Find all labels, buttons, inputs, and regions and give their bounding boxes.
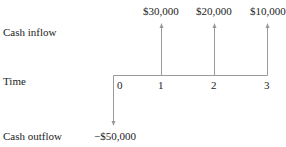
- period-label-1: 1: [158, 79, 164, 91]
- cash-inflow-label: Cash inflow: [3, 26, 56, 38]
- arrowhead-up-icon: [266, 23, 270, 28]
- arrowhead-up-icon: [213, 23, 217, 28]
- arrowhead-down-icon: [112, 121, 116, 126]
- cash-outflow-label: Cash outflow: [3, 130, 62, 142]
- arrowhead-up-icon: [160, 23, 164, 28]
- period-label-3: 3: [264, 79, 270, 91]
- period-label-0: 0: [117, 79, 123, 91]
- cash-flow-timeline: [0, 0, 286, 147]
- outflow-value-t0: −$50,000: [94, 130, 136, 142]
- period-label-2: 2: [211, 79, 217, 91]
- inflow-value-t1: $30,000: [143, 5, 179, 17]
- inflow-value-t2: $20,000: [196, 5, 232, 17]
- inflow-value-t3: $10,000: [250, 5, 286, 17]
- time-label: Time: [3, 75, 26, 87]
